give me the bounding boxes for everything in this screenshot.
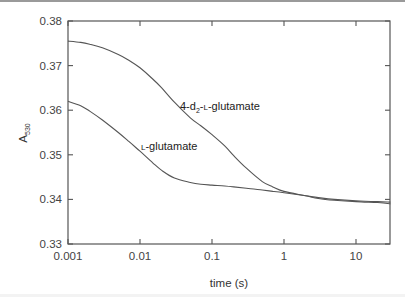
y-axis-title: A530 [17,123,31,142]
x-tick-label: 0.1 [204,250,220,262]
y-tick-labels: 0.330.340.350.360.370.38 [40,15,63,250]
x-tick-labels: 0.0010.010.1110 [54,250,363,262]
x-tick-label: 10 [350,250,363,262]
axis-ticks [68,21,390,244]
y-tick-label: 0.34 [40,193,63,205]
x-tick-label: 0.001 [54,250,83,262]
x-tick-label: 0.01 [129,250,151,262]
y-tick-label: 0.38 [40,15,62,27]
y-tick-label: 0.36 [40,104,62,116]
y-tick-label: 0.33 [40,238,62,250]
curve-label-protio: L-glutamate [141,140,197,152]
y-tick-label: 0.37 [40,60,62,72]
curve-label-deuterated: 4-d2-L-glutamate [180,100,260,114]
plot-frame [68,21,390,244]
curve-glutamate [68,101,390,202]
chart-canvas: 0.330.340.350.360.370.38 0.0010.010.1110… [0,0,405,298]
x-tick-label: 1 [281,250,287,262]
curve-deuterated-glutamate [68,41,390,204]
y-tick-label: 0.35 [40,149,62,161]
data-curves [68,41,390,204]
x-axis-title: time (s) [210,277,249,289]
